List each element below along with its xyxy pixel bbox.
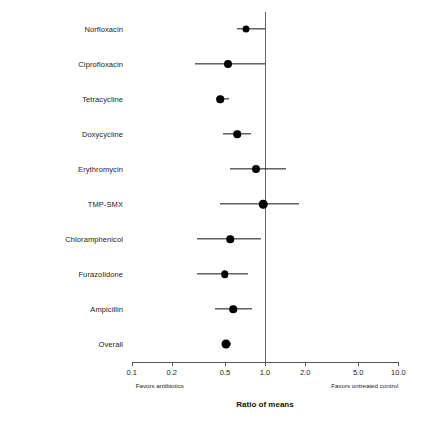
forest-plot: NorfloxacinCiprofloxacinTetracyclineDoxy… — [0, 0, 423, 433]
row-label-furazolidone: Furazolidone — [78, 270, 123, 279]
row-label-tmp-smx: TMP-SMX — [88, 200, 123, 209]
ci-line-norfloxacin — [237, 28, 265, 29]
x-tick-5.0 — [358, 362, 359, 366]
row-label-overall: Overall — [99, 340, 123, 349]
row-label-ampicillin: Ampicillin — [90, 305, 123, 314]
x-tick-label-5.0: 5.0 — [353, 368, 363, 377]
point-marker-doxycycline — [234, 130, 242, 138]
favors-antibiotics-label: Favors antibiotics — [136, 382, 184, 389]
x-axis-title: Ratio of means — [236, 400, 293, 409]
x-tick-2.0 — [305, 362, 306, 366]
point-marker-ampicillin — [230, 305, 238, 313]
point-marker-erythromycin — [252, 165, 260, 173]
point-marker-ciprofloxacin — [224, 60, 232, 68]
x-tick-0.1 — [132, 362, 133, 366]
point-marker-norfloxacin — [242, 26, 249, 33]
row-label-tetracycline: Tetracycline — [82, 95, 123, 104]
point-marker-tmp-smx — [259, 200, 268, 209]
row-label-doxycycline: Doxycycline — [82, 130, 123, 139]
point-marker-chloramphenicol — [227, 235, 235, 243]
x-tick-0.5 — [225, 362, 226, 366]
point-marker-tetracycline — [216, 95, 224, 103]
row-label-norfloxacin: Norfloxacin — [84, 25, 123, 34]
x-tick-1.0 — [265, 362, 266, 366]
x-tick-label-1.0: 1.0 — [260, 368, 270, 377]
x-tick-label-10.0: 10.0 — [391, 368, 406, 377]
row-label-chloramphenicol: Chloramphenicol — [65, 235, 123, 244]
x-tick-label-0.5: 0.5 — [220, 368, 230, 377]
point-marker-furazolidone — [221, 270, 229, 278]
point-marker-overall — [222, 340, 231, 349]
favors-untreated-control-label: Favors untreated control — [331, 382, 398, 389]
x-tick-label-0.2: 0.2 — [167, 368, 177, 377]
x-tick-label-0.1: 0.1 — [126, 368, 136, 377]
x-tick-0.2 — [172, 362, 173, 366]
x-tick-label-2.0: 2.0 — [300, 368, 310, 377]
row-label-ciprofloxacin: Ciprofloxacin — [78, 60, 123, 69]
row-label-erythromycin: Erythromycin — [78, 165, 123, 174]
reference-line-at-1 — [265, 12, 266, 362]
x-tick-10.0 — [398, 362, 399, 366]
